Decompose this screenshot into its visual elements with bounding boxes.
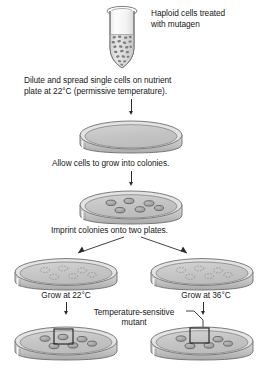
arrow-head-left bbox=[64, 311, 68, 315]
step-3-label: Allow cells to grow into colonies. bbox=[52, 159, 169, 169]
petri-dish-colonies bbox=[77, 187, 185, 229]
step-2-label-line1: Dilute and spread single cells on nutrie… bbox=[24, 76, 171, 86]
step-1-label-line1: Haploid cells treated bbox=[151, 9, 225, 19]
step-2-label-line2: plate at 22°C (permissive temperature). bbox=[24, 87, 167, 97]
arrow-head-1 bbox=[129, 111, 133, 115]
microcentrifuge-tube-icon bbox=[98, 2, 146, 72]
petri-dish-imprint-left bbox=[12, 255, 120, 295]
petri-dish-result-22c bbox=[12, 322, 120, 366]
grow-label-left: Grow at 22°C bbox=[18, 291, 114, 301]
grow-label-right: Grow at 36°C bbox=[158, 291, 254, 301]
petri-dish-empty bbox=[77, 117, 185, 157]
step-1-label-line2: with mutagen bbox=[151, 20, 200, 30]
step-4-label: Imprint colonies onto two plates. bbox=[51, 226, 168, 236]
petri-dish-imprint-right bbox=[148, 255, 256, 295]
arrow-head-2 bbox=[129, 182, 133, 186]
petri-dish-result-36c bbox=[148, 322, 256, 366]
figure-canvas: Haploid cells treated with mutagen Dilut… bbox=[0, 0, 265, 373]
